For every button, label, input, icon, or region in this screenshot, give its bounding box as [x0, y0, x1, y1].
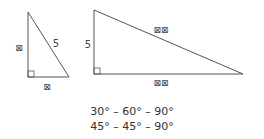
ratio-45-45-90: 45° – 45° – 90° — [0, 119, 264, 134]
ratio-30-60-90: 30° – 60° – 90° — [0, 104, 264, 119]
large-vertical-leg-label: 5 — [85, 39, 91, 50]
large-hypotenuse-label: ⊠⊠ — [153, 25, 168, 35]
small-vertical-leg-label: ⊠ — [15, 43, 23, 53]
angle-ratios: 30° – 60° – 90° 45° – 45° – 90° — [0, 104, 264, 134]
small-right-angle-marker — [28, 71, 34, 77]
large-right-triangle: 5 ⊠⊠ ⊠⊠ — [85, 10, 243, 88]
large-triangle-shape — [94, 10, 243, 74]
large-right-angle-marker — [94, 68, 100, 74]
large-horizontal-leg-label: ⊠⊠ — [153, 78, 168, 88]
small-horizontal-leg-label: ⊠ — [43, 82, 51, 92]
small-hypotenuse-label: 5 — [53, 38, 59, 49]
small-right-triangle: ⊠ 5 ⊠ — [15, 12, 69, 92]
small-triangle-shape — [28, 12, 69, 77]
